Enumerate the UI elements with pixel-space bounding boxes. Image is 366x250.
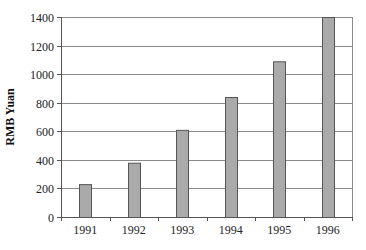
x-tick-label: 1992 xyxy=(122,223,146,237)
bar-1996 xyxy=(323,18,335,218)
x-tick-label: 1995 xyxy=(267,223,291,237)
y-tick-label: 800 xyxy=(36,97,54,111)
y-tick-label: 1200 xyxy=(30,40,54,54)
y-axis-label: RMB Yuan xyxy=(3,88,18,145)
x-tick-label: 1994 xyxy=(219,223,243,237)
y-tick-label: 200 xyxy=(36,182,54,196)
bar-1993 xyxy=(177,130,189,217)
bar-1994 xyxy=(226,98,238,218)
plot-area: 0200400600800100012001400199119921993199… xyxy=(0,0,366,250)
bar-1992 xyxy=(129,163,141,217)
x-tick-label: 1991 xyxy=(73,223,97,237)
bar-1995 xyxy=(274,62,286,218)
bar-1991 xyxy=(80,185,92,218)
y-tick-label: 1000 xyxy=(30,68,54,82)
y-tick-label: 600 xyxy=(36,125,54,139)
y-tick-label: 1400 xyxy=(30,11,54,25)
x-tick-label: 1993 xyxy=(170,223,194,237)
x-tick-label: 1996 xyxy=(316,223,340,237)
bar-chart: RMB Yuan 0200400600800100012001400199119… xyxy=(0,0,366,250)
y-tick-label: 400 xyxy=(36,154,54,168)
y-tick-label: 0 xyxy=(48,211,54,225)
